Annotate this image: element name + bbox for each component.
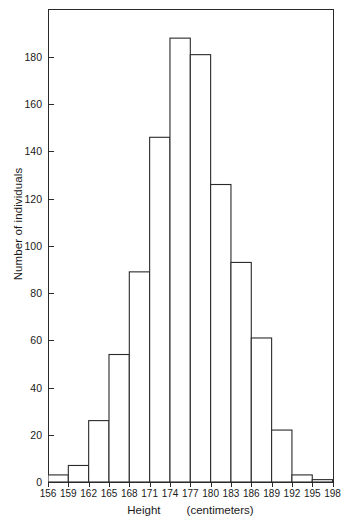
histogram-figure: Number of individuals Height(centimeters… — [0, 0, 347, 529]
histogram-bar — [211, 185, 231, 482]
y-tick-label: 160 — [8, 99, 42, 110]
histogram-bar — [68, 465, 88, 482]
histogram-bar — [150, 137, 170, 482]
y-tick-label: 20 — [8, 430, 42, 441]
x-axis-title-main: Height — [127, 504, 160, 516]
y-tick-label: 100 — [8, 241, 42, 252]
histogram-bar — [231, 262, 251, 482]
y-tick-label: 180 — [8, 52, 42, 63]
y-tick-label: 60 — [8, 335, 42, 346]
x-axis-title: Height(centimeters) — [48, 504, 333, 516]
histogram-bar — [89, 421, 109, 482]
histogram-bar — [48, 475, 68, 482]
histogram-bar — [251, 338, 271, 482]
histogram-bar — [292, 475, 312, 482]
histogram-bar — [272, 430, 292, 482]
y-tick-label: 140 — [8, 146, 42, 157]
y-tick-label: 120 — [8, 194, 42, 205]
histogram-bar — [190, 55, 210, 482]
y-tick-label: 80 — [8, 288, 42, 299]
x-tick-label: 198 — [318, 489, 347, 499]
histogram-bar — [170, 38, 190, 482]
histogram-bar — [109, 355, 129, 482]
histogram-bars — [48, 9, 334, 483]
y-tick-label: 40 — [8, 383, 42, 394]
y-tick-label: 0 — [8, 477, 42, 488]
histogram-bar — [312, 480, 332, 482]
histogram-bar — [129, 272, 149, 482]
x-axis-title-unit: (centimeters) — [187, 504, 254, 516]
